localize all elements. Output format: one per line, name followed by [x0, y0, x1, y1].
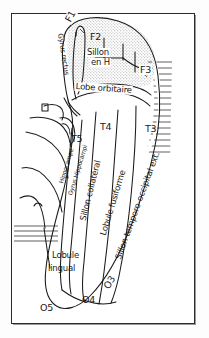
figure-page: F1 Gyrus rectus F2 Sillon en H F3 Lobe o…: [0, 0, 209, 338]
label-o5: O5: [40, 303, 53, 313]
label-lobule-lingual-line1: Lobule: [52, 251, 79, 260]
label-o4: O4: [82, 295, 95, 305]
label-sillon-en-h-line1: Sillon: [86, 48, 110, 57]
label-lobule-lingual-line2: lingual: [48, 264, 75, 273]
label-t5: T5: [71, 134, 82, 144]
label-f2: F2: [90, 32, 101, 42]
label-t4: T4: [100, 122, 111, 132]
label-t3: T3: [145, 124, 156, 134]
label-sillon-en-h-line2: en H: [90, 58, 111, 67]
label-f3: F3: [139, 65, 152, 75]
